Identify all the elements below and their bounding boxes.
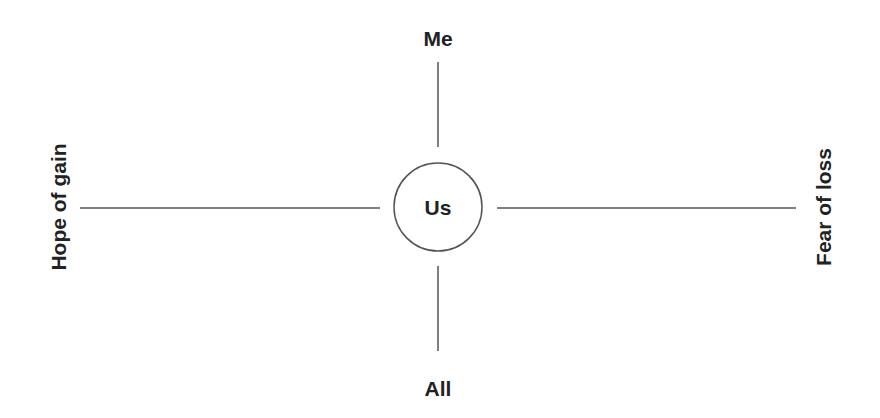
center-label: Us — [425, 196, 452, 219]
diagram-canvas: Us Me All Hope of gain Fear of loss — [0, 0, 880, 418]
top-label: Me — [423, 27, 452, 50]
left-label: Hope of gain — [47, 143, 70, 270]
right-label: Fear of loss — [812, 148, 835, 266]
bottom-label: All — [425, 377, 452, 400]
